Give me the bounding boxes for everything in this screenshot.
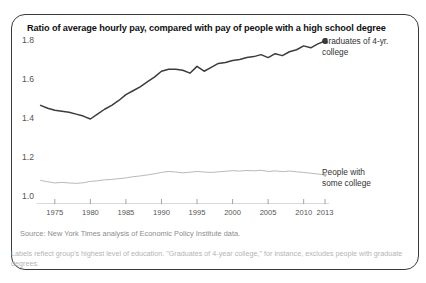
x-axis-tick-label: 1995 — [177, 208, 217, 217]
footnote-text: Labels reflect group's highest level of … — [11, 249, 415, 269]
annotation-upper-line-2: college — [322, 47, 412, 58]
chart-title: Ratio of average hourly pay, compared wi… — [27, 23, 412, 33]
x-axis-tick-label: 1975 — [35, 208, 75, 217]
y-axis-tick-label: 1.8 — [8, 35, 34, 45]
x-axis-tick-label: 2013 — [305, 208, 345, 217]
y-axis-tick-label: 1.4 — [8, 113, 34, 123]
x-axis-tick-label: 1985 — [106, 208, 146, 217]
x-axis-tick-label: 1980 — [70, 208, 110, 217]
y-axis-tick-label: 1.2 — [8, 152, 34, 162]
x-axis-tick-label: 2000 — [213, 208, 253, 217]
annotation-lower-line-2: some college — [322, 178, 412, 189]
annotation-people-some-college: People with some college — [322, 167, 412, 188]
annotation-graduates-4yr-college: Graduates of 4-yr. college — [322, 36, 412, 57]
x-axis-tick-label: 1990 — [142, 208, 182, 217]
y-axis-tick-label: 1.6 — [8, 74, 34, 84]
annotation-lower-line-1: People with — [322, 167, 412, 178]
x-axis-tick-label: 2005 — [248, 208, 288, 217]
y-axis-tick-label: 1.0 — [8, 191, 34, 201]
source-text: Source: New York Times analysis of Econo… — [20, 229, 240, 238]
annotation-upper-line-1: Graduates of 4-yr. — [322, 36, 412, 47]
